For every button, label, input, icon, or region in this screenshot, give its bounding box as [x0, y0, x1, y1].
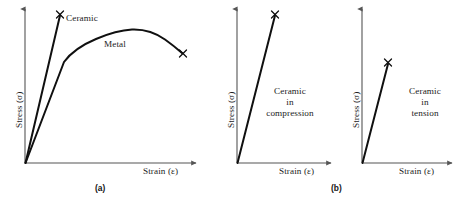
panel-a-metal-label: Metal	[104, 39, 126, 50]
panel-b-tension-curve	[363, 64, 389, 163]
panel-a-axes	[25, 9, 196, 163]
panel-b-tension-curve-label-line2: in	[393, 97, 455, 108]
panel-b-tension-y-axis-label: Stress (σ)	[351, 92, 362, 128]
panel-b-tension-curve-label-line1: Ceramic	[393, 86, 455, 97]
panel-a-ceramic-label: Ceramic	[66, 13, 98, 24]
panel-b-compression-curve-label-line1: Ceramic	[258, 86, 322, 97]
panel-b-tension-curve-label-line3: tension	[393, 108, 455, 119]
panel-b-compression-curve-label-line3: compression	[251, 108, 329, 119]
panel-b-caption: (b)	[331, 183, 342, 193]
panel-b-compression-curve-label-line2: in	[258, 97, 322, 108]
panel-b-compression-x-axis-label: Strain (ε)	[279, 166, 314, 177]
panel-b-tension-x-axis-label: Strain (ε)	[399, 166, 434, 177]
panel-b-compression-y-axis-label: Stress (σ)	[226, 92, 237, 128]
panel-a-caption: (a)	[95, 183, 105, 193]
panel-a-x-axis-label: Strain (ε)	[143, 166, 178, 177]
panel-a-ceramic-curve	[26, 16, 61, 164]
panel-a-metal-fracture-marker	[180, 50, 187, 57]
panel-a-y-axis-label: Stress (σ)	[14, 92, 25, 128]
stress-strain-figure: Stress (σ) Strain (ε) Ceramic Metal (a) …	[0, 0, 455, 199]
